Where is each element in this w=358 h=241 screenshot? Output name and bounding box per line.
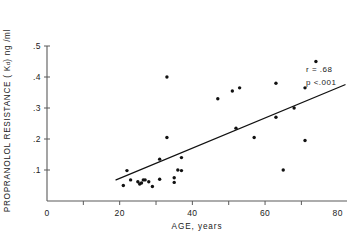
data-point <box>173 176 176 179</box>
x-tick-label: 40 <box>187 208 197 218</box>
x-tick-label: 60 <box>260 208 270 218</box>
stats-annotation: r = .68 p <.001 <box>306 63 336 89</box>
pvalue-text: p <.001 <box>306 76 336 89</box>
y-tick-label: .1 <box>33 165 41 175</box>
data-point <box>274 82 277 85</box>
y-tick-label: .2 <box>33 134 41 144</box>
data-point <box>173 181 176 184</box>
data-point <box>125 169 128 172</box>
data-point <box>180 169 183 172</box>
scatter-plot <box>0 0 358 241</box>
x-tick-label: 80 <box>333 208 343 218</box>
y-tick-label: .5 <box>33 41 41 51</box>
axes <box>47 46 347 201</box>
data-point <box>147 180 150 183</box>
data-point <box>303 139 306 142</box>
data-point <box>231 89 234 92</box>
data-point <box>292 106 295 109</box>
data-point <box>180 156 183 159</box>
data-point <box>238 86 241 89</box>
data-point <box>282 168 285 171</box>
y-tick-label: .4 <box>33 72 41 82</box>
figure: PROPRANOLOL RESISTANCE ( Kd ) ng /ml AGE… <box>0 0 358 241</box>
data-point <box>151 185 154 188</box>
data-point <box>216 97 219 100</box>
data-point <box>129 178 132 181</box>
x-tick-label: 20 <box>115 208 125 218</box>
data-point <box>165 136 168 139</box>
data-point <box>252 136 255 139</box>
data-point <box>143 178 146 181</box>
data-point <box>274 116 277 119</box>
regression-line <box>116 85 345 180</box>
data-point <box>122 184 125 187</box>
origin-label: 0 <box>44 208 49 218</box>
data-point <box>176 168 179 171</box>
correlation-text: r = .68 <box>306 63 336 76</box>
data-point <box>165 75 168 78</box>
data-point <box>234 126 237 129</box>
regression-line-segment <box>116 85 345 180</box>
axis-ticks <box>44 46 301 205</box>
data-point <box>158 157 161 160</box>
data-point <box>158 178 161 181</box>
data-points <box>122 60 318 188</box>
data-point <box>140 181 143 184</box>
y-tick-label: .3 <box>33 103 41 113</box>
